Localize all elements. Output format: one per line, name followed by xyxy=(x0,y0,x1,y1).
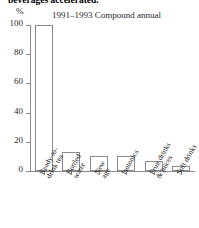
y-tick-label-100: 100 xyxy=(10,19,24,28)
y-tick-80: 80 xyxy=(26,54,30,55)
y-tick-20: 20 xyxy=(26,142,30,143)
y-tick-label-40: 40 xyxy=(14,107,23,116)
chart-subtitle: 1991–1993 Compound annual xyxy=(52,10,161,21)
y-tick-label-20: 20 xyxy=(14,136,23,145)
y-tick-label-60: 60 xyxy=(14,77,23,86)
y-tick-label-80: 80 xyxy=(14,48,23,57)
y-tick-40: 40 xyxy=(26,113,30,114)
bar-chart-figure: beverages accelerated. % 1991–1993 Compo… xyxy=(0,0,199,228)
y-tick-60: 60 xyxy=(26,83,30,84)
x-axis-category-labels: Ready-to-drink teaBottledwaterNewageIsot… xyxy=(30,172,199,228)
y-tick-label-0: 0 xyxy=(19,165,24,174)
y-tick-100: 100 xyxy=(26,25,30,26)
chart-headline: beverages accelerated. xyxy=(8,0,193,5)
y-axis-unit-label: % xyxy=(16,7,24,16)
y-axis-line xyxy=(30,25,31,171)
